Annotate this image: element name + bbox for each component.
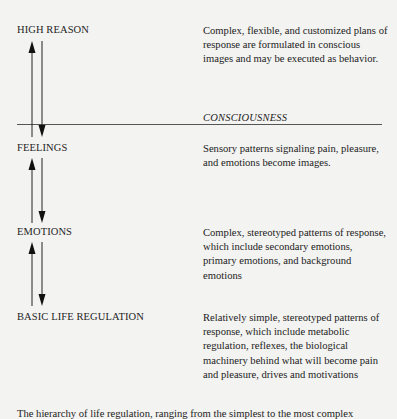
- up-arrow-icon: [29, 242, 36, 306]
- down-arrow-icon: [39, 158, 46, 223]
- up-arrow-icon: [29, 158, 36, 223]
- figure-caption: The hierarchy of life regulation, rangin…: [17, 408, 353, 419]
- down-arrow-icon: [39, 41, 46, 137]
- down-arrow-icon: [39, 242, 46, 306]
- up-arrow-icon: [29, 41, 36, 137]
